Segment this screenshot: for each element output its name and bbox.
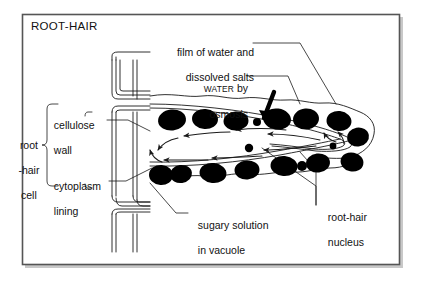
label-cellulose-wall: cellulose wall	[48, 106, 108, 156]
page-title: ROOT-HAIR	[31, 20, 98, 32]
label-root-hair-nucleus: root-hair nucleus	[322, 198, 392, 248]
label-root-hair-cell: root -hair cell	[8, 126, 44, 201]
label-water-by-osmosis: WATER by osmosis	[168, 69, 248, 120]
label-cytoplasm-lining: cytoplasm lining	[48, 167, 114, 217]
label-sugary-solution: sugary solution in vacuole	[192, 206, 302, 256]
